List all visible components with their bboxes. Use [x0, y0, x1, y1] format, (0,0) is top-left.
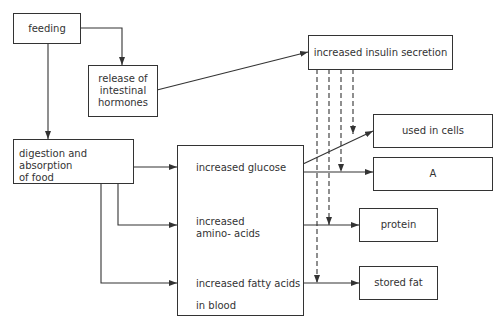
node-blood-levels: increased glucose increased amino- acids… — [177, 145, 304, 316]
node-a: A — [373, 157, 493, 191]
node-used-in-cells: used in cells — [373, 114, 493, 148]
label-increased-fatty-line2: in blood — [196, 300, 236, 312]
label-increased-amino-line1: increased — [196, 216, 245, 228]
node-label: digestion and absorption — [19, 148, 133, 172]
node-digestion-absorption: digestion and absorption of food — [13, 139, 134, 184]
node-stored-fat: stored fat — [359, 266, 438, 300]
node-label: A — [430, 168, 437, 180]
label-increased-amino-line2: amino- acids — [196, 228, 260, 240]
node-label: increased insulin secretion — [314, 47, 447, 59]
node-feeding: feeding — [13, 13, 81, 44]
node-label: of food — [19, 172, 133, 184]
node-release-intestinal-hormones: release of intestinal hormones — [88, 65, 158, 117]
node-insulin-secretion: increased insulin secretion — [308, 35, 453, 70]
node-label: intestinal — [100, 85, 146, 97]
node-label: release of — [98, 73, 147, 85]
node-label: hormones — [98, 97, 148, 109]
node-label: used in cells — [402, 125, 464, 137]
node-label: feeding — [28, 23, 66, 35]
label-increased-fatty-line1: increased fatty acids — [196, 278, 300, 290]
node-label: protein — [381, 219, 417, 231]
label-increased-glucose: increased glucose — [196, 162, 286, 174]
node-label: stored fat — [374, 277, 422, 289]
node-protein: protein — [359, 208, 438, 242]
